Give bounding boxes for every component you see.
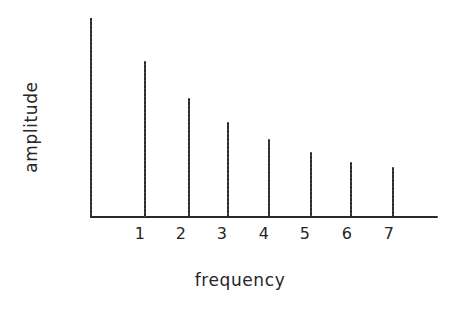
spike-bar-3 — [227, 122, 229, 217]
x-tick-label-5: 5 — [297, 226, 313, 242]
y-axis-title: amplitude — [21, 52, 41, 202]
spike-bar-2 — [188, 98, 190, 217]
x-tick-label-6: 6 — [339, 226, 355, 242]
x-axis-title: frequency — [160, 270, 320, 290]
spike-bar-5 — [310, 152, 312, 217]
x-tick-label-4: 4 — [256, 226, 272, 242]
spike-bar-6 — [350, 162, 352, 217]
x-tick-label-2: 2 — [173, 226, 189, 242]
spike-bar-7 — [392, 167, 394, 217]
x-tick-label-3: 3 — [214, 226, 230, 242]
x-tick-label-7: 7 — [381, 226, 397, 242]
spike-bar-1 — [144, 61, 146, 217]
x-axis-line — [90, 216, 438, 218]
spike-bar-4 — [268, 139, 270, 217]
spike-bar-0 — [90, 18, 92, 217]
plot-area: 1 2 3 4 5 6 7 — [0, 0, 460, 313]
x-tick-label-1: 1 — [132, 226, 148, 242]
spectrum-figure: 1 2 3 4 5 6 7 frequency amplitude — [0, 0, 460, 313]
